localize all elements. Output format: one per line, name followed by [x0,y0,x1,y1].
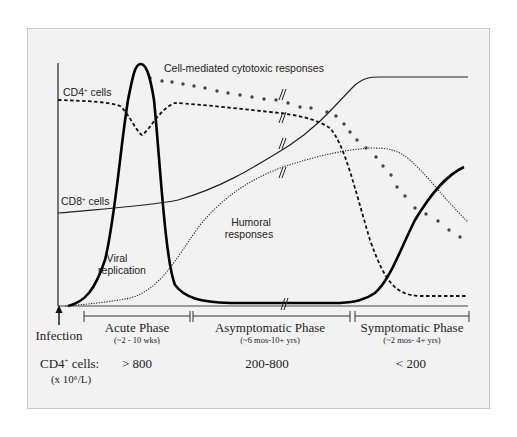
phase-acute-name: Acute Phase [105,320,170,335]
cd4-row-units: (x 10⁶/L) [51,373,92,386]
cytotoxic-curve [148,76,461,238]
hiv-course-diagram: Cell-mediated cytotoxic responses CD4+ c… [0,0,517,437]
cd4-row-label: CD4+ cells: [40,356,99,371]
phase-symptomatic-name: Symptomatic Phase [361,320,464,335]
phase-acute-duration: (~2 - 10 wks) [114,335,160,345]
phase-asymptomatic-name: Asymptomatic Phase [215,320,325,335]
label-infection: Infection [36,328,83,343]
label-humoral-1: Humoral [231,216,271,228]
axis-break-marks [279,89,288,310]
label-viral-1: Viral [107,252,128,264]
cd8-curve [58,77,468,213]
label-cd4: CD4+ cells [63,86,111,98]
infection-arrow-icon [56,305,63,325]
label-humoral-2: responses [225,228,273,240]
label-cd8: CD8+ cells [61,195,109,207]
phase-symptomatic-duration: (~2 mos- 4+ yrs) [383,335,440,345]
cd4-value-asymptomatic: 200-800 [245,356,288,371]
cd4-value-symptomatic: < 200 [396,356,426,371]
label-cytotoxic: Cell-mediated cytotoxic responses [164,62,324,74]
phase-asymptomatic-duration: (~6 mos-10+ yrs) [240,335,300,345]
cd4-value-acute: > 800 [122,356,152,371]
label-viral-2: replication [98,264,146,276]
